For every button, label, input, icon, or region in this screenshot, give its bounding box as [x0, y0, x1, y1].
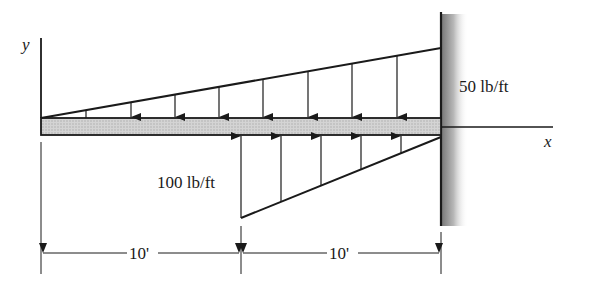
y-axis-label: y [20, 35, 30, 54]
top-load-label: 50 lb/ft [459, 77, 509, 96]
top-load-arrows [86, 56, 397, 118]
beam [41, 118, 441, 135]
bottom-load-label: 100 lb/ft [157, 173, 215, 192]
wall-hatch-shade [442, 14, 468, 226]
dimension-label-left: 10' [129, 244, 149, 263]
dimension-label-right: 10' [329, 244, 349, 263]
x-axis-label: x [543, 132, 552, 151]
bottom-distributed-load [241, 136, 441, 218]
bottom-load-envelope [241, 137, 441, 218]
top-load-envelope [41, 48, 441, 118]
beam-diagram: y x 50 lb/ft 100 lb/ft [0, 0, 589, 289]
top-distributed-load [41, 48, 441, 118]
bottom-load-arrows [241, 136, 401, 218]
fixed-wall-support [441, 12, 468, 226]
